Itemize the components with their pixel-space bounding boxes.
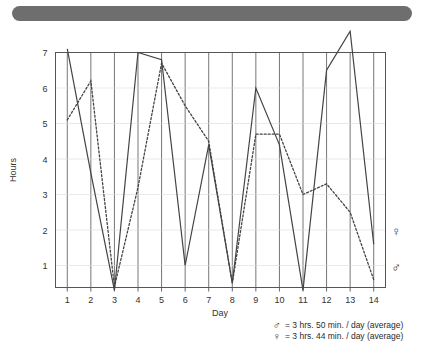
x-tick-label: 8 [230,295,235,305]
legend: ♂ = 3 hrs. 50 min. / day (average) ♀ = 3… [272,320,403,342]
legend-row: ♂ = 3 hrs. 50 min. / day (average) [272,320,403,331]
x-tick-label: 14 [369,295,379,305]
y-tick-label: 6 [42,84,47,94]
legend-row: ♀ = 3 hrs. 44 min. / day (average) [272,331,403,342]
chart-area: 1234567 1234567891011121314 Hours Day ♀ … [0,30,423,320]
x-tick-label: 6 [183,295,188,305]
x-tick-label: 1 [65,295,70,305]
legend-label: = 3 hrs. 50 min. / day (average) [285,320,403,331]
y-tick-label: 1 [42,261,47,271]
line-chart: 1234567 1234567891011121314 Hours Day ♀ … [0,30,423,320]
data-series-solid [67,31,373,290]
horizontal-gridlines [56,53,386,266]
legend-label: = 3 hrs. 44 min. / day (average) [285,331,403,342]
y-axis-ticks: 1234567 [42,48,47,271]
x-tick-label: 12 [322,295,332,305]
x-tick-label: 10 [274,295,284,305]
x-tick-label: 4 [135,295,140,305]
y-tick-label: 3 [42,190,47,200]
solid-series-end-symbol: ♀ [391,224,401,239]
y-tick-label: 4 [42,155,47,165]
dotted-series-end-symbol: ♂ [391,260,401,275]
x-tick-label: 11 [298,295,307,305]
y-tick-label: 7 [42,48,47,58]
x-tick-label: 7 [206,295,211,305]
venus-icon: ♀ [272,331,281,342]
x-tick-label: 5 [159,295,164,305]
y-tick-label: 5 [42,119,47,129]
x-tick-label: 9 [253,295,258,305]
x-axis-title: Day [212,308,229,318]
y-tick-label: 2 [42,226,47,236]
x-tick-label: 2 [88,295,93,305]
redaction-bar [12,6,412,21]
data-series-dotted [67,63,373,287]
x-axis-ticks: 1234567891011121314 [65,288,379,305]
x-tick-label: 13 [345,295,355,305]
y-axis-title: Hours [8,158,18,183]
x-tick-label: 3 [112,295,117,305]
